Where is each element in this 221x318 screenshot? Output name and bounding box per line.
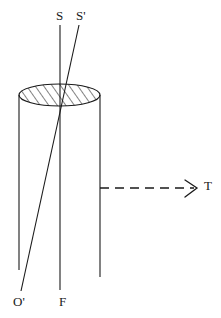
ray-line-s-prime (21, 25, 79, 291)
label-s: S (56, 9, 63, 22)
diagram-canvas (0, 0, 221, 318)
ray-diagram-figure: S S' T O' F (0, 0, 221, 318)
label-s-prime: S' (76, 9, 86, 22)
label-f: F (59, 295, 66, 308)
label-t: T (204, 179, 212, 192)
label-o-prime: O' (13, 295, 25, 308)
